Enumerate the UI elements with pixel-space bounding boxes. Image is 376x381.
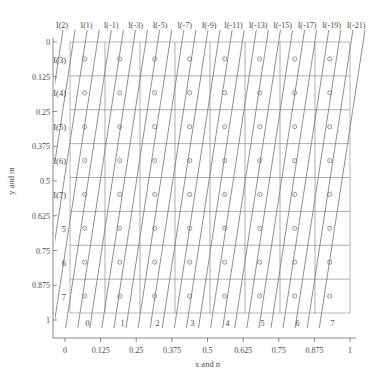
- y-axis-tick-label: 0.75: [36, 247, 50, 256]
- data-point-center: [154, 92, 155, 93]
- inner-x-tick-label: 7: [331, 319, 335, 328]
- diagonal-line: [307, 30, 353, 330]
- y-axis-tick-label: 0.125: [32, 73, 50, 82]
- data-point-center: [224, 262, 225, 263]
- data-point-center: [294, 262, 295, 263]
- diagonal-label: I(-9): [202, 21, 217, 30]
- data-point-center: [189, 262, 190, 263]
- data-point-center: [259, 126, 260, 127]
- x-axis-tick-label: 1: [348, 346, 352, 355]
- data-point-center: [84, 160, 85, 161]
- data-point-center: [119, 58, 120, 59]
- inner-y-tick-label: I(3): [53, 55, 66, 65]
- diagonal-line: [53, 30, 99, 330]
- diagonal-line: [271, 30, 317, 330]
- inner-y-tick-label: 7: [62, 292, 66, 302]
- data-point-center: [224, 296, 225, 297]
- data-point-center: [294, 58, 295, 59]
- data-point-center: [189, 126, 190, 127]
- data-point-center: [189, 194, 190, 195]
- x-axis-tick-label: 0.25: [129, 346, 143, 355]
- data-point-center: [329, 262, 330, 263]
- y-axis-tick-label: 0.375: [32, 142, 50, 151]
- data-point-center: [84, 228, 85, 229]
- diagonal-line: [102, 30, 148, 330]
- data-point-center: [154, 228, 155, 229]
- data-point-center: [189, 296, 190, 297]
- diagonal-line: [247, 30, 293, 330]
- inner-x-tick-label: 2: [156, 319, 160, 328]
- diagonal-line: [259, 30, 305, 330]
- data-point-center: [294, 92, 295, 93]
- y-axis-tick-label: 1: [46, 316, 50, 325]
- inner-x-tick-label: 3: [191, 319, 195, 328]
- x-axis-tick-label: 0.625: [234, 346, 252, 355]
- data-point-center: [259, 228, 260, 229]
- data-point-center: [259, 160, 260, 161]
- diagonal-label: I(-17): [298, 21, 317, 30]
- data-point-center: [154, 126, 155, 127]
- diagonal-label: I(-3): [128, 21, 143, 30]
- y-axis-tick-label: 0.625: [32, 212, 50, 221]
- diagonal-line: [222, 30, 268, 330]
- data-point-center: [119, 160, 120, 161]
- data-point-center: [329, 92, 330, 93]
- data-point-center: [294, 228, 295, 229]
- data-point-center: [259, 194, 260, 195]
- diagonal-label: I(1): [81, 21, 93, 30]
- inner-y-tick-label: I(4): [53, 88, 66, 98]
- inner-y-tick-label: I(5): [53, 122, 66, 132]
- data-point-center: [119, 262, 120, 263]
- x-axis-tick-label: 0.75: [272, 346, 286, 355]
- data-point-center: [329, 58, 330, 59]
- inner-y-tick-label: 5: [62, 224, 66, 234]
- data-point-center: [119, 296, 120, 297]
- nomogram-figure: 00.1250.250.3750.50.6250.750.8751x and n…: [0, 0, 376, 381]
- data-point-center: [119, 228, 120, 229]
- x-axis-tick-label: 0.375: [163, 346, 181, 355]
- data-point-center: [224, 126, 225, 127]
- data-point-center: [189, 228, 190, 229]
- data-point-center: [224, 194, 225, 195]
- diagonal-line: [198, 30, 244, 330]
- y-axis-tick-label: 0.875: [32, 281, 50, 290]
- data-point-center: [154, 160, 155, 161]
- data-point-center: [84, 58, 85, 59]
- diagonal-line: [162, 30, 208, 330]
- x-axis-tick-label: 0: [63, 346, 67, 355]
- inner-y-tick-label: 6: [62, 258, 66, 268]
- diagonal-line: [283, 30, 329, 330]
- diagonal-line: [114, 30, 160, 330]
- diagonal-label: I(-13): [249, 21, 268, 30]
- y-axis-tick-label: 0.25: [36, 108, 50, 117]
- data-point-center: [259, 262, 260, 263]
- diagonal-label: I(-1): [104, 21, 119, 30]
- diagonal-line: [174, 30, 220, 330]
- x-axis-tick-label: 0.125: [92, 346, 110, 355]
- data-point-center: [189, 58, 190, 59]
- chart-canvas: 00.1250.250.3750.50.6250.750.8751x and n…: [0, 0, 376, 381]
- diagonal-line: [234, 30, 280, 330]
- data-point-center: [294, 126, 295, 127]
- diagonal-line: [89, 30, 135, 330]
- diagonal-label: I(-5): [153, 21, 168, 30]
- data-point-center: [224, 160, 225, 161]
- data-point-center: [294, 194, 295, 195]
- data-point-center: [259, 296, 260, 297]
- data-point-center: [294, 296, 295, 297]
- diagonal-line: [138, 30, 184, 330]
- diagonal-label: I(-19): [322, 21, 341, 30]
- data-point-center: [329, 126, 330, 127]
- data-point-center: [119, 194, 120, 195]
- x-axis-tick-label: 0.875: [305, 346, 323, 355]
- data-point-center: [84, 126, 85, 127]
- data-point-center: [84, 296, 85, 297]
- inner-x-tick-label: 5: [261, 319, 265, 328]
- data-point-center: [224, 58, 225, 59]
- data-point-center: [329, 194, 330, 195]
- inner-y-tick-label: I(6): [53, 156, 66, 166]
- diagonal-label: I(2): [56, 21, 68, 30]
- data-point-center: [84, 262, 85, 263]
- diagonal-line: [210, 30, 256, 330]
- inner-x-tick-label: 0: [86, 319, 90, 328]
